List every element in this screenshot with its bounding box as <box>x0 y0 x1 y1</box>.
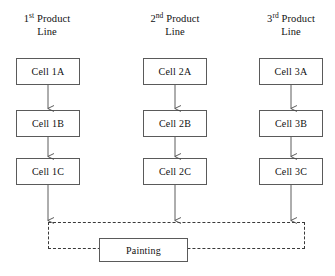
column-header-1-word: Product <box>37 13 70 24</box>
cell-box-3b[interactable]: Cell 3B <box>259 110 323 137</box>
painting-station-label: Painting <box>126 245 161 256</box>
column-header-3-word: Product <box>282 13 315 24</box>
column-header-3: 3rd Product Line <box>252 12 330 38</box>
column-header-2-ordinal: nd <box>156 11 164 20</box>
column-header-2-line2: Line <box>165 26 185 37</box>
column-header-1-ordinal: st <box>29 11 34 20</box>
cell-label: Cell 3A <box>275 66 308 77</box>
column-header-2-word: Product <box>166 13 199 24</box>
column-header-3-ordinal: rd <box>272 11 278 20</box>
cell-box-2b[interactable]: Cell 2B <box>143 110 207 137</box>
cell-label: Cell 3C <box>275 166 307 177</box>
diagram-canvas: 1st Product Line 2nd Product Line 3rd Pr… <box>0 0 335 276</box>
cell-box-2a[interactable]: Cell 2A <box>143 58 207 85</box>
cell-box-1c[interactable]: Cell 1C <box>16 158 80 185</box>
column-header-3-line2: Line <box>281 26 301 37</box>
column-header-1-line2: Line <box>37 26 57 37</box>
cell-box-3a[interactable]: Cell 3A <box>259 58 323 85</box>
cell-box-1a[interactable]: Cell 1A <box>16 58 80 85</box>
cell-label: Cell 2C <box>159 166 191 177</box>
cell-box-1b[interactable]: Cell 1B <box>16 110 80 137</box>
cell-label: Cell 1C <box>32 166 64 177</box>
cell-label: Cell 2A <box>159 66 192 77</box>
cell-box-2c[interactable]: Cell 2C <box>143 158 207 185</box>
cell-label: Cell 1A <box>32 66 65 77</box>
cell-label: Cell 2B <box>159 118 191 129</box>
cell-label: Cell 3B <box>275 118 307 129</box>
column-header-1: 1st Product Line <box>8 12 86 38</box>
column-header-2: 2nd Product Line <box>136 12 214 38</box>
cell-box-3c[interactable]: Cell 3C <box>259 158 323 185</box>
cell-label: Cell 1B <box>32 118 64 129</box>
painting-station-box[interactable]: Painting <box>99 238 188 262</box>
